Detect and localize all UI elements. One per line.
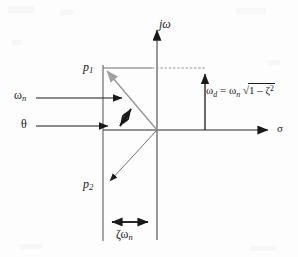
- equation-lhs-subscript: d: [213, 90, 217, 99]
- zeta-omega-n-label: ζωn: [116, 228, 133, 242]
- theta-angle-arc-arrow: [120, 109, 131, 126]
- pole-vector-p1: [107, 71, 157, 130]
- theta-label: θ: [21, 118, 27, 130]
- pole-diagram-graphic: [0, 0, 298, 257]
- radicand-exponent: 2: [270, 84, 274, 93]
- zeta-omega-n-label-subscript: n: [128, 232, 132, 242]
- real-axis-label: σ: [277, 123, 283, 134]
- pole-p2-label: p2: [83, 178, 93, 192]
- omega-n-label-subscript: n: [22, 93, 26, 103]
- omega-d-equation: ωd = ωn √1 – ζ2: [206, 85, 275, 99]
- pole-p1-label: p1: [83, 61, 93, 75]
- figure-canvas: jω σ p1 p2 ωn θ ζωn ωd = ωn √1 – ζ2: [0, 0, 298, 257]
- equation-equals: =: [220, 84, 226, 96]
- pole-p2-label-subscript: 2: [89, 182, 93, 192]
- equation-rhs-subscript: n: [236, 90, 240, 99]
- pole-p1-label-subscript: 1: [89, 65, 93, 75]
- pole-vector-p2: [110, 130, 157, 181]
- radicand: 1 – ζ2: [248, 83, 275, 96]
- omega-n-label: ωn: [14, 89, 26, 103]
- omega-n-label-base: ω: [14, 88, 22, 102]
- radicand-expression: 1 – ζ: [249, 84, 270, 96]
- imaginary-axis-label: jω: [159, 18, 171, 30]
- zeta-omega-n-label-text: ζω: [116, 227, 128, 241]
